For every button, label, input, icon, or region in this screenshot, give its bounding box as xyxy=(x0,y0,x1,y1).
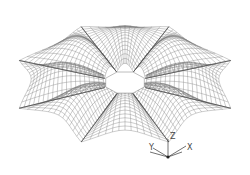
mesh-line-radial xyxy=(35,53,106,73)
mesh-line-radial xyxy=(27,86,105,109)
y-axis-label: Y xyxy=(148,143,154,152)
mesh-line-radial xyxy=(29,71,103,87)
mesh-line-circumferential xyxy=(103,75,105,88)
mesh-line-circumferential xyxy=(84,66,86,92)
mesh-line-circumferential xyxy=(43,36,91,65)
mesh-line-circumferential xyxy=(19,60,31,108)
mesh-line-circumferential xyxy=(161,99,212,131)
mesh-line-circumferential xyxy=(187,62,188,98)
mesh-line-circumferential xyxy=(48,94,93,126)
mesh-line-circumferential xyxy=(38,99,89,131)
mesh-line-radial xyxy=(144,53,215,73)
mesh-line-circumferential xyxy=(81,130,169,142)
mesh-line-circumferential xyxy=(89,68,91,91)
wireframe-figure: Z X Y xyxy=(0,0,250,175)
mesh-line-circumferential xyxy=(145,75,147,88)
mesh-line-radial xyxy=(128,27,138,65)
mesh-line-radial xyxy=(112,27,122,65)
mesh-line-circumferential xyxy=(169,27,231,61)
mesh-line-circumferential xyxy=(174,64,175,95)
mesh-line-circumferential xyxy=(202,64,207,102)
y-axis-line xyxy=(153,148,168,157)
mesh-line-circumferential xyxy=(169,108,231,142)
x-axis-line xyxy=(168,146,186,157)
mesh-line-circumferential xyxy=(19,27,81,61)
mesh-line-circumferential xyxy=(160,68,162,91)
mesh-line-circumferential xyxy=(164,66,166,92)
mesh-line-circumferential xyxy=(48,63,52,101)
mesh-line-circumferential xyxy=(159,36,207,65)
diagram-canvas: Z X Y xyxy=(0,0,250,175)
mesh-line-circumferential xyxy=(199,63,203,101)
mesh-line-radial xyxy=(147,71,221,87)
mesh-line-radial xyxy=(90,92,118,139)
mesh-line-circumferential xyxy=(167,107,226,139)
origin-point xyxy=(166,155,169,158)
z-axis-label: Z xyxy=(170,132,176,141)
mesh-line-circumferential xyxy=(19,108,81,142)
mesh-line-circumferential xyxy=(117,63,134,72)
mesh-line-radial xyxy=(132,92,160,139)
mesh-line-radial xyxy=(145,86,223,109)
x-axis-label: X xyxy=(187,143,193,152)
axis-triad: Z X Y xyxy=(148,132,193,159)
mesh-line-circumferential xyxy=(24,107,83,139)
mesh-line-circumferential xyxy=(219,60,231,108)
ridge-line xyxy=(81,94,116,142)
central-opening xyxy=(106,72,145,93)
ridge-line xyxy=(133,94,168,142)
mesh-line-circumferential xyxy=(43,64,48,102)
mesh-line-circumferential xyxy=(157,94,202,126)
y-axis-tail xyxy=(150,152,168,157)
mesh-line-circumferential xyxy=(75,64,76,95)
